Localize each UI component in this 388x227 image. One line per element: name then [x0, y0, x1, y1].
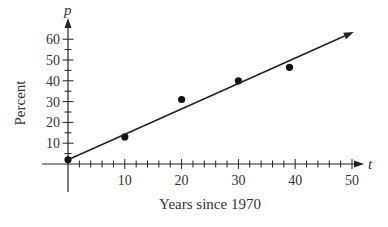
y-tick-label: 40 — [46, 74, 60, 89]
data-point — [178, 96, 185, 103]
data-point — [286, 64, 293, 71]
x-tick-label: 40 — [288, 173, 302, 188]
x-tick-label: 20 — [175, 173, 189, 188]
y-axis-label: Percent — [12, 80, 28, 126]
chart: 1020304050102030405060 Years since 1970 … — [0, 0, 388, 227]
ticks: 1020304050102030405060 — [46, 32, 359, 188]
x-axis-label: Years since 1970 — [159, 196, 261, 212]
x-tick-label: 30 — [231, 173, 245, 188]
y-tick-label: 20 — [46, 115, 60, 130]
x-tick-label: 10 — [118, 173, 132, 188]
y-tick-label: 60 — [46, 32, 60, 47]
y-tick-label: 30 — [46, 95, 60, 110]
y-tick-label: 50 — [46, 53, 60, 68]
y-axis-arrow — [65, 18, 72, 28]
marks — [64, 32, 353, 164]
x-tick-label: 50 — [345, 173, 359, 188]
trend-line — [68, 36, 345, 160]
trend-line-arrow — [343, 32, 354, 39]
y-tick-label: 10 — [46, 136, 60, 151]
y-variable-label: p — [63, 2, 72, 18]
x-variable-label: t — [368, 156, 373, 172]
x-axis-arrow — [354, 161, 364, 168]
